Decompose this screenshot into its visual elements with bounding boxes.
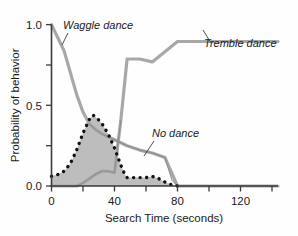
chart-background — [0, 0, 298, 236]
behavior-probability-chart: 0.0 0.5 1.0 0 40 80 120 Search Time (sec… — [0, 0, 298, 236]
y-axis-title: Probability of behavior — [9, 48, 21, 162]
x-axis-title: Search Time (seconds) — [105, 212, 223, 224]
x-tick-label-40: 40 — [108, 195, 121, 207]
waggle-dance-label: Waggle dance — [63, 19, 133, 31]
chart-figure: 0.0 0.5 1.0 0 40 80 120 Search Time (sec… — [0, 0, 298, 236]
x-tick-label-80: 80 — [171, 195, 184, 207]
x-tick-label-0: 0 — [48, 195, 54, 207]
nodance-label: No dance — [152, 127, 199, 139]
x-tick-label-120: 120 — [231, 195, 250, 207]
y-tick-label-0: 0.0 — [26, 180, 42, 192]
y-tick-label-1: 1.0 — [26, 19, 42, 31]
tremble-dance-label: Tremble dance — [204, 37, 277, 49]
y-tick-label-0-5: 0.5 — [26, 100, 42, 112]
